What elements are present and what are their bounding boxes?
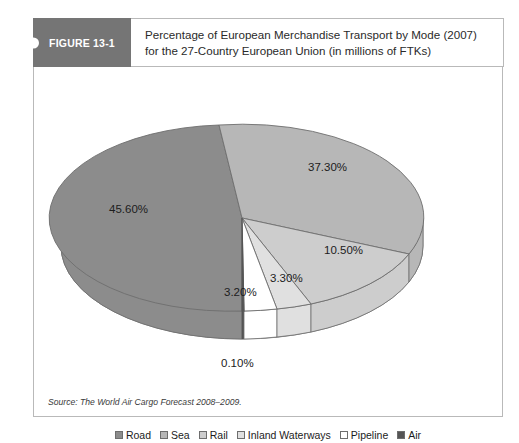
pie-label-inland-waterways: 3.30%: [270, 272, 303, 284]
figure-title: Percentage of European Merchandise Trans…: [145, 27, 490, 59]
figure-header: FIGURE 13-1 Percentage of European Merch…: [33, 18, 504, 67]
legend-swatch-pipeline: [340, 431, 348, 439]
legend-item-rail: Rail: [199, 429, 228, 441]
legend-label-inland-waterways: Inland Waterways: [248, 429, 331, 441]
pie-chart-graphic: [34, 68, 502, 378]
pie-label-rail: 10.50%: [324, 244, 363, 256]
figure-source-note: Source: The World Air Cargo Forecast 200…: [48, 397, 242, 407]
legend-swatch-sea: [160, 431, 168, 439]
legend-item-pipeline: Pipeline: [340, 429, 388, 441]
legend-item-road: Road: [115, 429, 151, 441]
chart-legend: Road Sea Rail Inland Waterways Pipeline …: [34, 429, 502, 441]
legend-label-pipeline: Pipeline: [351, 429, 388, 441]
legend-swatch-road: [115, 431, 123, 439]
legend-item-sea: Sea: [160, 429, 190, 441]
pie-chart: 37.30% 45.60% 10.50% 3.30% 3.20% 0.10% R…: [34, 68, 502, 378]
legend-label-sea: Sea: [171, 429, 190, 441]
figure-number-label: FIGURE 13-1: [49, 37, 115, 49]
figure-card: FIGURE 13-1 Percentage of European Merch…: [33, 18, 503, 417]
legend-item-air: Air: [397, 429, 421, 441]
legend-label-rail: Rail: [210, 429, 228, 441]
legend-swatch-inland-waterways: [237, 431, 245, 439]
figure-title-container: Percentage of European Merchandise Trans…: [131, 18, 504, 67]
pie-label-sea: 37.30%: [308, 161, 347, 173]
legend-swatch-air: [397, 431, 405, 439]
legend-label-air: Air: [408, 429, 421, 441]
pie-top-face: [49, 124, 424, 311]
pie-label-road: 45.60%: [109, 203, 148, 215]
bullet-dot-icon: [28, 37, 39, 48]
legend-item-inland-waterways: Inland Waterways: [237, 429, 331, 441]
pie-label-air: 0.10%: [221, 357, 254, 369]
figure-number-tag: FIGURE 13-1: [33, 18, 131, 67]
legend-label-road: Road: [126, 429, 151, 441]
legend-swatch-rail: [199, 431, 207, 439]
pie-label-pipeline: 3.20%: [224, 286, 257, 298]
